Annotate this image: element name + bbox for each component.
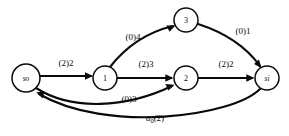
node-3[interactable]: 3 bbox=[174, 8, 198, 32]
node-so[interactable]: so bbox=[12, 64, 40, 92]
node-label-2: 2 bbox=[184, 74, 188, 83]
node-label-1: 1 bbox=[103, 74, 107, 83]
arrowhead-1-to-3 bbox=[166, 25, 175, 31]
edge-label-si-to-so: a0(2) bbox=[146, 113, 164, 124]
arrowhead-1-to-2 bbox=[165, 74, 173, 81]
edge-label-1-to-2: (2)3 bbox=[139, 59, 154, 69]
flow-network-diagram: so 1 2 3 si (2)2 (0)4 (0)1 bbox=[0, 0, 289, 136]
nodes-layer: so 1 2 3 si bbox=[12, 8, 279, 92]
node-label-3: 3 bbox=[184, 16, 188, 25]
graph-canvas: so 1 2 3 si (2)2 (0)4 (0)1 bbox=[0, 0, 289, 136]
edge-label-so-to-2: (0)3 bbox=[122, 94, 137, 104]
node-label-si: si bbox=[264, 74, 269, 83]
node-2[interactable]: 2 bbox=[174, 66, 198, 90]
edge-label-2-to-si: (2)2 bbox=[219, 59, 234, 69]
edges-layer bbox=[36, 24, 262, 117]
node-1[interactable]: 1 bbox=[93, 66, 117, 90]
edge-label-so-to-1: (2)2 bbox=[59, 58, 74, 68]
node-label-so: so bbox=[23, 74, 30, 83]
edge-so-to-1 bbox=[40, 72, 93, 79]
edge-label-3-to-si: (0)1 bbox=[236, 26, 251, 36]
edge-1-to-2 bbox=[117, 74, 174, 81]
arrowhead-2-to-si bbox=[246, 74, 254, 81]
node-si[interactable]: si bbox=[255, 66, 279, 90]
edge-2-to-si bbox=[198, 74, 255, 81]
arrowhead-so-to-1 bbox=[85, 72, 93, 79]
edge-label-si-to-so-value: (2) bbox=[154, 113, 165, 123]
edge-label-1-to-3: (0)4 bbox=[126, 32, 141, 42]
arrowhead-si-to-so bbox=[36, 91, 44, 98]
